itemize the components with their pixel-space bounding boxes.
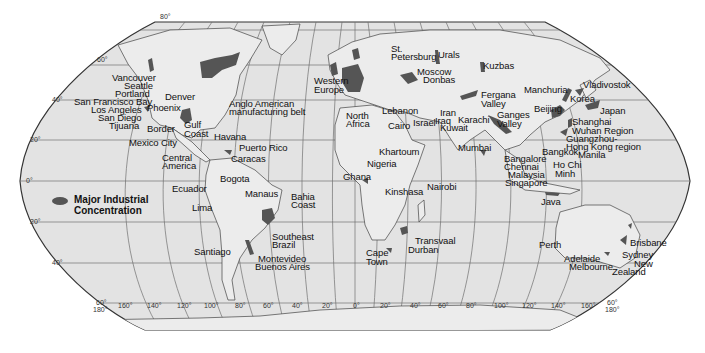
lat-label-40s: 40° <box>52 259 63 266</box>
label-ghana: Ghana <box>343 172 371 182</box>
legend-label: Major Industrial Concentration <box>74 194 148 216</box>
label-karachi: Karachi <box>458 115 490 125</box>
label-java: Java <box>541 197 561 207</box>
lon-label: 140° <box>147 302 161 309</box>
lon-label: 80° <box>235 302 246 309</box>
label-southeast-brazil: Brazil <box>272 240 295 250</box>
lat-label-20s: 20° <box>30 218 41 225</box>
label-durban: Durban <box>408 245 439 255</box>
lon-label-180-right: 180° <box>605 306 619 313</box>
label-mexico-city: Mexico City <box>129 138 177 148</box>
label-cairo: Cairo <box>388 121 410 131</box>
label-vladivostok: Vladivostok <box>583 80 630 90</box>
label-nigeria: Nigeria <box>367 159 396 169</box>
label-japan: Japan <box>600 106 625 116</box>
label-border: Border <box>147 124 175 134</box>
lon-label: 80° <box>466 302 477 309</box>
label-caracas: Caracas <box>231 154 266 164</box>
lon-label: 40° <box>410 302 421 309</box>
lon-label-180-left: 180° <box>93 306 107 313</box>
label-havana: Havana <box>214 132 246 142</box>
new-zealand <box>652 255 664 278</box>
label-beijing: Beijing <box>534 104 562 114</box>
label-phoenix: Phoenix <box>147 103 181 113</box>
label-manchuria: Manchuria <box>524 85 567 95</box>
label-manaus: Manaus <box>245 189 278 199</box>
label-singapore: Singapore <box>505 178 547 188</box>
label-st-petersburg: Petersburg <box>391 52 436 62</box>
label-fergana-valley: Valley <box>481 99 506 109</box>
lon-label: 100° <box>204 302 218 309</box>
label-mumbai: Mumbai <box>458 143 491 153</box>
label-khartoum: Khartoum <box>379 147 419 157</box>
label-western-europe: Europe <box>314 85 344 95</box>
label-cape-town: Town <box>366 257 388 267</box>
label-kinshasa: Kinshasa <box>385 187 423 197</box>
label-israel: Israel <box>413 118 436 128</box>
label-brisbane: Brisbane <box>630 238 667 248</box>
label-ecuador: Ecuador <box>172 184 207 194</box>
lat-label-0: 0° <box>26 177 33 184</box>
label-buenos-aires: Buenos Aires <box>255 262 310 272</box>
lon-label: 140° <box>551 302 565 309</box>
label-kuzbas: Kuzbas <box>483 61 514 71</box>
label-new-zealand: Zealand <box>612 267 646 277</box>
lat-label-80: 80° <box>160 13 171 20</box>
label-donbas: Donbas <box>423 75 455 85</box>
lon-label: 60° <box>263 302 274 309</box>
industrial-swatch-icon <box>52 197 68 205</box>
label-bangkok: Bangkok <box>542 147 578 157</box>
label-melbourne: Melbourne <box>569 262 613 272</box>
lon-label: 160° <box>118 302 132 309</box>
label-korea: Korea <box>570 94 595 104</box>
lon-label: 20° <box>322 302 333 309</box>
lat-label-20n: 20° <box>30 136 41 143</box>
label-lebanon: Lebanon <box>382 106 418 116</box>
label-manila: Manila <box>578 150 605 160</box>
lon-label: 120° <box>177 302 191 309</box>
label-tijuana: Tijuana <box>109 121 139 131</box>
lon-label: 120° <box>522 302 536 309</box>
map-legend: Major Industrial Concentration <box>52 194 148 216</box>
label-perth: Perth <box>539 240 561 250</box>
label-nairobi: Nairobi <box>427 182 456 192</box>
lat-label-60s-right: 60° <box>607 299 618 306</box>
lon-label: 60° <box>438 302 449 309</box>
label-central-america: America <box>162 161 196 171</box>
lat-label-40n: 40° <box>52 96 63 103</box>
label-urals: Urals <box>438 50 460 60</box>
label-bahia-coast: Coast <box>291 200 315 210</box>
lon-label: 100° <box>494 302 508 309</box>
label-gulf-coast: Coast <box>184 129 208 139</box>
label-ganges-valley: Valley <box>497 119 522 129</box>
label-puerto-rico: Puerto Rico <box>239 143 288 153</box>
lon-label: 160° <box>581 302 595 309</box>
label-denver: Denver <box>165 92 195 102</box>
lat-label-60n: 60° <box>97 56 108 63</box>
lat-label-60s-left: 60° <box>96 299 107 306</box>
label-santiago: Santiago <box>194 247 231 257</box>
label-manufacturing-belt: manufacturing belt <box>229 107 305 117</box>
lon-label: 40° <box>292 302 303 309</box>
lon-label: 0° <box>353 302 360 309</box>
label-lima: Lima <box>192 203 212 213</box>
label-bogota: Bogota <box>220 174 250 184</box>
label-north-africa: Africa <box>346 119 370 129</box>
lon-label: 20° <box>380 302 391 309</box>
label-ho-chi-minh: Minh <box>555 169 575 179</box>
